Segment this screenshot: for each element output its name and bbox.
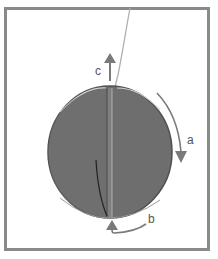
label-b: b xyxy=(148,212,155,226)
disc xyxy=(48,86,172,218)
arrow-b xyxy=(106,220,146,233)
disc-diagram: c a b xyxy=(0,0,218,259)
label-c: c xyxy=(95,64,101,78)
arrow-c xyxy=(104,53,116,81)
string-line xyxy=(115,8,130,90)
label-a: a xyxy=(187,133,194,147)
slit xyxy=(107,88,112,218)
